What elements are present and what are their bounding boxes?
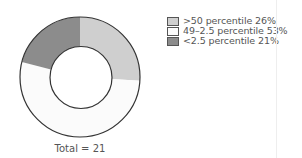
legend: >50 percentile 26% 49–2.5 percentile 53%… bbox=[167, 16, 288, 46]
legend-item-below-2-5: <2.5 percentile 21% bbox=[167, 36, 288, 46]
legend-label: <2.5 percentile 21% bbox=[183, 36, 279, 46]
legend-swatch-white bbox=[167, 27, 179, 36]
total-label: Total = 21 bbox=[40, 142, 120, 156]
legend-swatch-light-gray bbox=[167, 17, 179, 26]
donut-chart bbox=[0, 0, 162, 158]
legend-swatch-dark-gray bbox=[167, 37, 179, 46]
donut-inner-hole bbox=[50, 47, 112, 109]
vertical-divider bbox=[276, 0, 277, 158]
